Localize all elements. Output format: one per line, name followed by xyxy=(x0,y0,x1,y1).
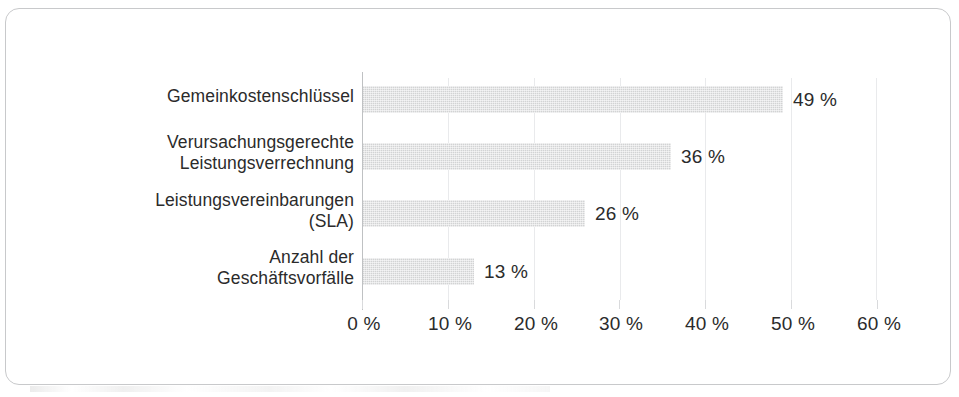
bar-value-label: 13 % xyxy=(484,261,528,283)
x-tick-label-0: 0 % xyxy=(347,313,380,335)
x-tick-label-20: 20 % xyxy=(514,313,558,335)
gridline-60 xyxy=(876,78,877,300)
y-axis-line xyxy=(362,72,363,310)
category-label-verursachungsgerechte-leistungsverrechnung: Verursachungsgerechte Leistungsverrechnu… xyxy=(167,132,354,174)
bar-value-label: 49 % xyxy=(793,89,837,111)
tick-mark-30 xyxy=(619,300,620,309)
tick-mark-60 xyxy=(877,300,878,309)
bar-verursachungsgerechte-leistungsverrechnung xyxy=(362,143,671,170)
gridline-50 xyxy=(791,78,792,300)
category-label-leistungsvereinbarungen-sla: Leistungsvereinbarungen (SLA) xyxy=(155,190,354,232)
x-tick-label-50: 50 % xyxy=(771,313,815,335)
plot-area: 49 % 36 % 26 % 13 % xyxy=(362,78,877,300)
bar-value-label: 36 % xyxy=(681,146,725,168)
bar-value-label: 26 % xyxy=(595,203,639,225)
x-tick-label-10: 10 % xyxy=(428,313,472,335)
x-tick-label-30: 30 % xyxy=(599,313,643,335)
tick-mark-20 xyxy=(534,300,535,309)
bar-leistungsvereinbarungen-sla xyxy=(362,200,585,227)
x-tick-label-60: 60 % xyxy=(857,313,901,335)
tick-mark-50 xyxy=(791,300,792,309)
tick-mark-0 xyxy=(362,300,363,309)
category-label-anzahl-der-geschaeftsvorfaelle: Anzahl der Geschäftsvorfälle xyxy=(217,247,354,289)
tick-mark-10 xyxy=(448,300,449,309)
x-tick-label-40: 40 % xyxy=(685,313,729,335)
tick-mark-40 xyxy=(705,300,706,309)
bar-gemeinkostenschluessel xyxy=(362,86,783,113)
bar-anzahl-der-geschaeftsvorfaelle xyxy=(362,258,474,285)
horizontal-bar-chart: 49 % 36 % 26 % 13 % Gemeinkostenschlüsse… xyxy=(0,0,959,397)
category-label-gemeinkostenschluessel: Gemeinkostenschlüssel xyxy=(167,86,354,107)
